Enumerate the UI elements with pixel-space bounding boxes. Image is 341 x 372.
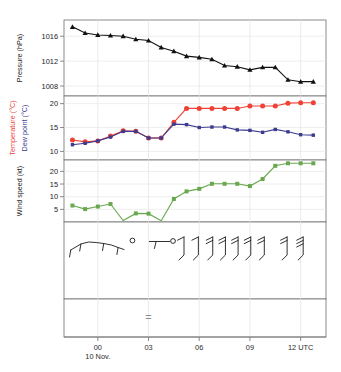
data-point-windspeed (223, 182, 227, 186)
x-axis-date-label: 10 Nov. (85, 352, 110, 361)
axis-label-temperature: Temperature (°C) (8, 100, 17, 155)
panel-frame-present_weather_bottom (64, 299, 326, 337)
panel-frame-wind_speed (64, 160, 326, 222)
data-point-temperature (197, 106, 202, 111)
data-point-dewpoint (198, 126, 201, 129)
data-point-dewpoint (96, 139, 99, 142)
x-tick-label-00: 00 (94, 343, 102, 352)
data-point-windspeed (235, 182, 239, 186)
data-point-dewpoint (286, 130, 289, 133)
data-point-windspeed (197, 187, 201, 191)
panel-frame-temperature_dewpoint (64, 96, 326, 160)
data-point-windspeed (108, 202, 112, 206)
data-point-windspeed (172, 197, 176, 201)
data-point-temperature (235, 106, 240, 111)
x-tick-label-06: 06 (195, 343, 203, 352)
data-point-windspeed (299, 161, 303, 165)
data-point-temperature (70, 137, 75, 142)
y-tick-label-temperature-10: 10 (50, 147, 58, 156)
axis-label-pressure: Pressure (hPa) (15, 34, 24, 82)
data-point-temperature (209, 106, 214, 111)
data-point-windspeed (134, 211, 138, 215)
present-weather-symbol-mist: = (145, 311, 151, 323)
data-point-dewpoint (299, 133, 302, 136)
data-point-temperature (184, 106, 189, 111)
data-point-dewpoint (71, 143, 74, 146)
y-tick-label-pressure-1016: 1016 (42, 32, 58, 41)
y-tick-label-temperature-15: 15 (50, 123, 58, 132)
panel-frame-pressure (64, 20, 326, 96)
data-point-temperature (247, 104, 252, 109)
y-tick-label-windspeed-20: 20 (50, 167, 58, 176)
y-tick-label-windspeed-5: 5 (54, 205, 58, 214)
data-point-windspeed (70, 204, 74, 208)
y-tick-label-pressure-1008: 1008 (42, 82, 58, 91)
data-point-dewpoint (109, 135, 112, 138)
data-point-windspeed (248, 184, 252, 188)
data-point-windspeed (83, 207, 87, 211)
data-point-windspeed (261, 177, 265, 181)
meteogram-svg: 0003060912 UTC10 Nov.101610121008Pressur… (0, 0, 341, 372)
data-point-temperature (273, 104, 278, 109)
y-tick-label-windspeed-10: 10 (50, 192, 58, 201)
axis-label-dewpoint: Dew point (°C) (20, 105, 29, 152)
y-tick-label-temperature-20: 20 (50, 99, 58, 108)
data-point-dewpoint (236, 128, 239, 131)
data-point-windspeed (286, 161, 290, 165)
data-point-temperature (285, 101, 290, 106)
data-point-windspeed (273, 164, 277, 168)
axis-label-windspeed: Wind speed (kt) (15, 166, 24, 216)
data-point-dewpoint (248, 129, 251, 132)
data-point-dewpoint (274, 128, 277, 131)
data-point-dewpoint (185, 123, 188, 126)
data-point-dewpoint (172, 122, 175, 125)
x-tick-label-12 UTC: 12 UTC (288, 343, 314, 352)
data-point-dewpoint (261, 131, 264, 134)
data-point-dewpoint (83, 142, 86, 145)
meteogram-chart: 0003060912 UTC10 Nov.101610121008Pressur… (0, 0, 341, 372)
data-point-windspeed (147, 212, 151, 216)
data-point-dewpoint (223, 125, 226, 128)
x-tick-label-03: 03 (144, 343, 152, 352)
data-point-windspeed (210, 182, 214, 186)
y-tick-label-windspeed-15: 15 (50, 180, 58, 189)
data-point-dewpoint (210, 125, 213, 128)
data-point-temperature (222, 106, 227, 111)
data-point-temperature (298, 100, 303, 105)
data-point-temperature (260, 104, 265, 109)
y-tick-label-pressure-1012: 1012 (42, 57, 58, 66)
data-point-temperature (311, 100, 316, 105)
panel-frame-present_weather_and_wind_barbs (64, 222, 326, 299)
data-point-dewpoint (312, 133, 315, 136)
data-point-windspeed (185, 189, 189, 193)
data-point-dewpoint (159, 136, 162, 139)
data-point-dewpoint (121, 130, 124, 133)
data-point-dewpoint (134, 130, 137, 133)
x-tick-label-09: 09 (246, 343, 254, 352)
data-point-dewpoint (147, 136, 150, 139)
data-point-windspeed (96, 205, 100, 209)
data-point-windspeed (311, 161, 315, 165)
